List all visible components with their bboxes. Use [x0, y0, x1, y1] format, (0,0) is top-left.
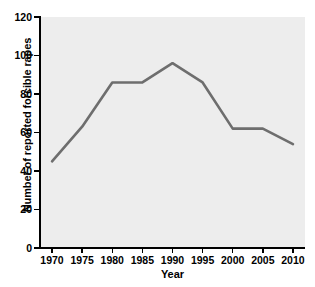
data-line-reported-forcible-rapes [52, 63, 293, 161]
x-tick-mark [292, 249, 293, 253]
y-axis-spine [39, 16, 41, 249]
line-series-svg [40, 17, 305, 248]
y-tick-mark [34, 209, 39, 210]
y-tick-mark [34, 132, 39, 133]
x-tick-mark [112, 249, 113, 253]
y-tick-mark [34, 93, 39, 94]
y-tick-label: 60 [0, 127, 32, 138]
chart-figure: Number of reported forcible rapes 020406… [0, 0, 315, 287]
y-tick-label: 20 [0, 204, 32, 215]
x-axis-title: Year [40, 268, 305, 280]
y-tick-mark [34, 247, 39, 248]
y-tick-label: 120 [0, 12, 32, 23]
y-tick-label: 0 [0, 243, 32, 254]
x-tick-mark [262, 249, 263, 253]
y-tick-label: 80 [0, 89, 32, 100]
x-tick-mark [172, 249, 173, 253]
plot-area [40, 17, 305, 248]
x-tick-mark [232, 249, 233, 253]
y-tick-label: 100 [0, 50, 32, 61]
x-tick-mark [202, 249, 203, 253]
x-tick-mark [51, 249, 52, 253]
x-tick-label: 2010 [273, 255, 313, 266]
y-tick-mark [34, 170, 39, 171]
x-tick-mark [142, 249, 143, 253]
x-tick-mark [81, 249, 82, 253]
y-tick-mark [34, 55, 39, 56]
y-tick-label: 40 [0, 166, 32, 177]
y-tick-mark [34, 16, 39, 17]
